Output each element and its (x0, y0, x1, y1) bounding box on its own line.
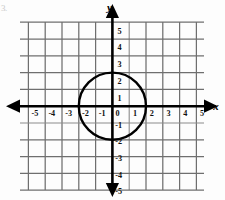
y-tick--4: -4 (115, 171, 122, 180)
y-tick-1: 1 (118, 94, 122, 103)
x-tick-labels: -5 -4 -3 -2 -1 0 1 2 3 4 5 (32, 109, 204, 118)
x-tick--3: -3 (65, 109, 72, 118)
y-axis-label: y (105, 1, 112, 13)
x-axis-label: x (212, 100, 219, 112)
y-tick-5: 5 (118, 27, 122, 36)
y-tick--3: -3 (115, 154, 122, 163)
y-tick--1: -1 (115, 121, 122, 130)
x-tick-5: 5 (200, 109, 204, 118)
y-tick-3: 3 (118, 60, 122, 69)
x-tick--2: -2 (82, 109, 89, 118)
y-tick--5: -5 (115, 187, 122, 196)
x-tick-1: 1 (133, 109, 137, 118)
x-tick-0: 0 (116, 109, 120, 118)
y-tick-2: 2 (118, 77, 122, 86)
x-tick--4: -4 (48, 109, 55, 118)
x-tick-3: 3 (167, 109, 171, 118)
y-tick-4: 4 (118, 43, 122, 52)
x-tick-2: 2 (150, 109, 154, 118)
x-tick--1: -1 (99, 109, 106, 118)
x-axis-left-arrow-icon (6, 100, 20, 113)
x-tick-4: 4 (183, 109, 187, 118)
y-tick--2: -2 (115, 137, 122, 146)
figure-canvas: 3. (0, 0, 225, 200)
x-tick--5: -5 (32, 109, 39, 118)
coordinate-plane: y x -5 -4 -3 -2 -1 0 1 2 3 4 5 5 4 3 2 1… (0, 0, 225, 200)
